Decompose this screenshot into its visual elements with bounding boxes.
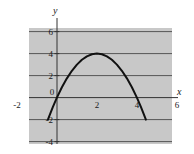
- y-tick-label-2: 2: [48, 71, 53, 81]
- y-tick-label-6: 6: [48, 27, 53, 37]
- plot-area-background: [29, 28, 172, 144]
- x-tick-label-0: 0: [50, 87, 55, 97]
- y-axis-label: y: [52, 5, 58, 16]
- y-tick-label--4: -4: [45, 137, 53, 147]
- x-tick-label-2: 2: [95, 100, 100, 110]
- x-tick-label-4: 4: [135, 100, 140, 110]
- x-tick-label--2: -2: [13, 100, 21, 110]
- x-axis-label: x: [176, 86, 182, 97]
- parabola-chart: -20246 -4-2246 x y: [0, 0, 194, 154]
- y-tick-label--2: -2: [45, 115, 53, 125]
- y-tick-label-4: 4: [48, 49, 53, 59]
- chart-screenshot: -20246 -4-2246 x y: [0, 0, 194, 154]
- x-tick-label-6: 6: [175, 100, 180, 110]
